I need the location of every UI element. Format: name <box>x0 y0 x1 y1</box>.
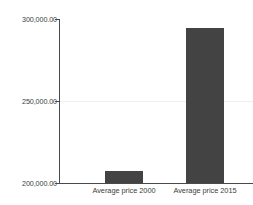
bar-average-price-2015 <box>186 28 224 183</box>
y-axis-tick-label-200000: 200,000.00 <box>0 179 57 188</box>
gridline-250000 <box>60 101 253 102</box>
x-axis-line <box>59 183 253 184</box>
y-axis-tick-label-250000: 250,000.00 <box>0 97 57 106</box>
bar-average-price-2000 <box>105 171 143 183</box>
y-axis-tick-label-300000: 300,000.00 <box>0 15 57 24</box>
bar-chart: 300,000.00 250,000.00 200,000.00 Average… <box>0 0 253 205</box>
x-axis-category-label-1: Average price 2015 <box>160 186 250 195</box>
y-axis-line <box>59 19 60 183</box>
x-axis-category-label-0: Average price 2000 <box>79 186 169 195</box>
